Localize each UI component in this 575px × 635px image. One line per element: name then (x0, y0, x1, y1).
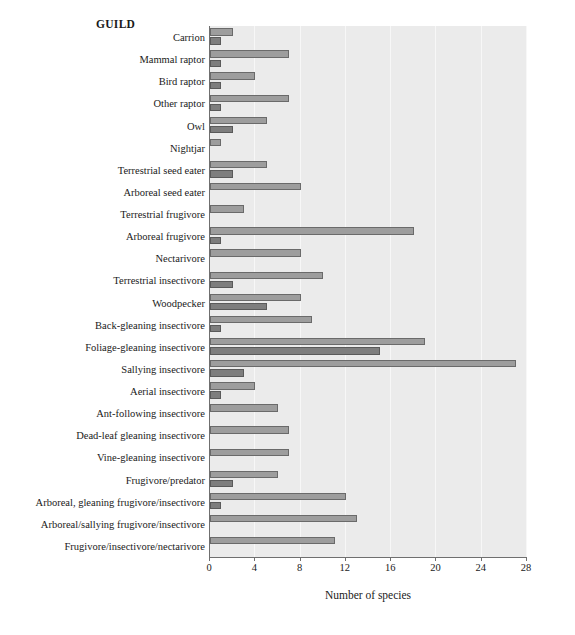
bar-upper (210, 404, 278, 411)
bar-group (210, 70, 527, 92)
category-label: Aerial insectivore (130, 386, 209, 397)
bar-row: Frugivore/predator (0, 469, 575, 491)
category-label: Frugivore/predator (126, 474, 209, 485)
bar-upper (210, 161, 267, 168)
bar-lower (210, 104, 221, 111)
bar-row: Arboreal/sallying frugivore/insectivore (0, 513, 575, 535)
x-axis-title: Number of species (209, 589, 527, 601)
bar-row: Owl (0, 115, 575, 137)
bar-group (210, 358, 527, 380)
bar-upper (210, 471, 278, 478)
bar-row: Arboreal seed eater (0, 181, 575, 203)
bar-group (210, 269, 527, 291)
category-label: Terrestrial frugivore (120, 209, 209, 220)
bar-lower (210, 82, 221, 89)
tick-mark (254, 557, 255, 561)
bar-upper (210, 426, 289, 433)
bar-group (210, 469, 527, 491)
bar-row: Terrestrial seed eater (0, 159, 575, 181)
category-label: Arboreal/sallying frugivore/insectivore (41, 518, 209, 529)
bar-row: Arboreal frugivore (0, 225, 575, 247)
bar-lower (210, 37, 221, 44)
bar-upper (210, 316, 312, 323)
bar-lower (210, 126, 233, 133)
x-tick-label: 16 (385, 562, 396, 573)
bar-group (210, 115, 527, 137)
bar-lower (210, 391, 221, 398)
bar-upper (210, 227, 414, 234)
bar-row: Terrestrial frugivore (0, 203, 575, 225)
bar-row: Vine-gleaning insectivore (0, 446, 575, 468)
bar-lower (210, 237, 221, 244)
bar-upper (210, 95, 289, 102)
bar-group (210, 314, 527, 336)
category-label: Terrestrial insectivore (113, 275, 209, 286)
bar-group (210, 491, 527, 513)
bar-upper (210, 139, 221, 146)
bar-row: Other raptor (0, 92, 575, 114)
bar-group (210, 48, 527, 70)
bar-row: Frugivore/insectivore/nectarivore (0, 535, 575, 557)
bar-row: Arboreal, gleaning frugivore/insectivore (0, 491, 575, 513)
bar-group (210, 424, 527, 446)
bar-upper (210, 205, 244, 212)
tick-mark (345, 557, 346, 561)
bar-group (210, 225, 527, 247)
bar-group (210, 336, 527, 358)
category-label: Arboreal seed eater (123, 186, 209, 197)
bar-upper (210, 183, 301, 190)
category-label: Sallying insectivore (121, 363, 209, 374)
bar-lower (210, 281, 233, 288)
bar-lower (210, 60, 221, 67)
bar-lower (210, 369, 244, 376)
category-label: Owl (187, 120, 209, 131)
category-label: Foliage-gleaning insectivore (85, 341, 209, 352)
bar-row: Carrion (0, 26, 575, 48)
chart-container: GUILD CarrionMammal raptorBird raptorOth… (0, 0, 575, 635)
bar-upper (210, 515, 357, 522)
bar-row: Nectarivore (0, 247, 575, 269)
bar-upper (210, 272, 323, 279)
bar-row: Terrestrial insectivore (0, 269, 575, 291)
category-label: Arboreal frugivore (126, 231, 209, 242)
tick-mark (481, 557, 482, 561)
bar-rows: CarrionMammal raptorBird raptorOther rap… (0, 26, 575, 557)
bar-upper (210, 249, 301, 256)
bar-lower (210, 303, 267, 310)
category-label: Vine-gleaning insectivore (97, 452, 209, 463)
bar-group (210, 92, 527, 114)
x-tick-label: 8 (297, 562, 302, 573)
category-label: Ant-following insectivore (96, 408, 209, 419)
bar-group (210, 203, 527, 225)
bar-group (210, 181, 527, 203)
bar-upper (210, 117, 267, 124)
bar-group (210, 137, 527, 159)
bar-upper (210, 338, 425, 345)
category-label: Other raptor (153, 98, 209, 109)
bar-lower (210, 325, 221, 332)
bar-row: Nightjar (0, 137, 575, 159)
bar-group (210, 247, 527, 269)
category-label: Arboreal, gleaning frugivore/insectivore (36, 496, 209, 507)
bar-row: Mammal raptor (0, 48, 575, 70)
tick-mark (209, 557, 210, 561)
x-tick-label: 4 (252, 562, 257, 573)
bar-group (210, 380, 527, 402)
tick-mark (300, 557, 301, 561)
bar-upper (210, 360, 516, 367)
bar-upper (210, 28, 233, 35)
bar-row: Aerial insectivore (0, 380, 575, 402)
bar-row: Dead-leaf gleaning insectivore (0, 424, 575, 446)
category-label: Frugivore/insectivore/nectarivore (64, 540, 209, 551)
bar-row: Bird raptor (0, 70, 575, 92)
x-axis-line (209, 557, 527, 558)
category-label: Dead-leaf gleaning insectivore (76, 430, 209, 441)
tick-mark (526, 557, 527, 561)
bar-lower (210, 170, 233, 177)
bar-group (210, 402, 527, 424)
bar-group (210, 446, 527, 468)
category-label: Back-gleaning insectivore (95, 319, 209, 330)
bar-upper (210, 449, 289, 456)
bar-lower (210, 347, 380, 354)
tick-mark (435, 557, 436, 561)
